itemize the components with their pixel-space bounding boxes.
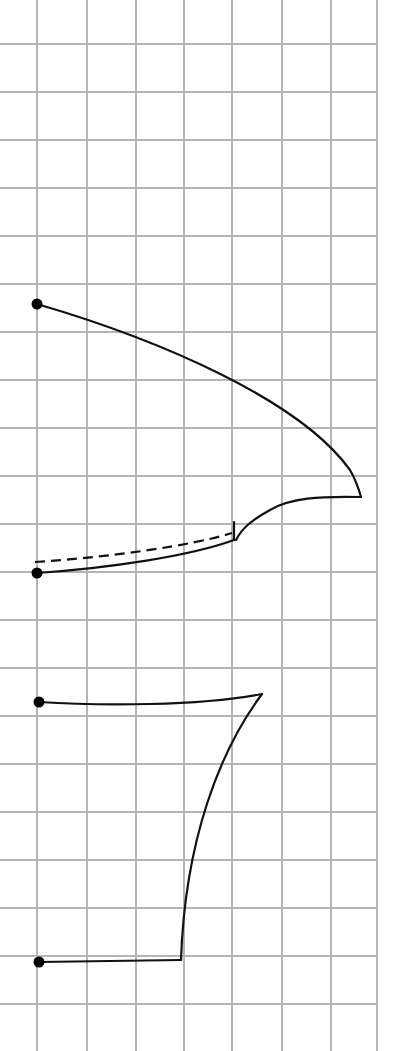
graph-paper-grid [0, 0, 377, 1051]
pattern-diagram [0, 0, 398, 1051]
lower-piece-top-curve [39, 694, 262, 704]
anchor-dot-upper-left [34, 697, 45, 708]
anchor-dot-top-left [32, 299, 43, 310]
lower-piece-side-curve [181, 694, 262, 960]
upper-piece-tip-edge [236, 497, 361, 540]
lower-pattern-piece [34, 694, 263, 968]
upper-piece-dashed-guide [35, 533, 232, 562]
upper-pattern-piece [32, 299, 362, 579]
anchor-dot-bottom-left [32, 568, 43, 579]
lower-piece-bottom-edge [39, 960, 181, 962]
anchor-dot-lower-left [34, 957, 45, 968]
